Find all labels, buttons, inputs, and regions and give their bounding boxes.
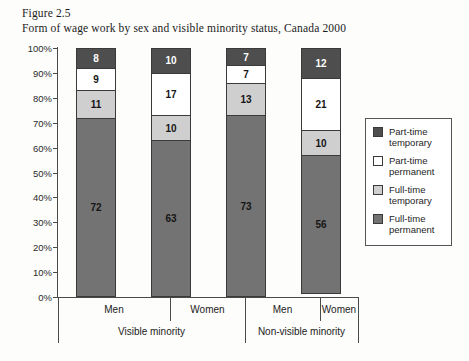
figure-number: Figure 2.5: [22, 6, 442, 20]
figure-title: Form of wage work by sex and visible min…: [22, 21, 442, 35]
y-tick-label-40: 40%: [12, 192, 52, 203]
legend-label: Full-timetemporary: [389, 184, 432, 206]
y-tick-label-80: 80%: [12, 92, 52, 103]
y-tick-label-50: 50%: [12, 167, 52, 178]
group-label-non-visible-minority: Non-visible minority: [245, 326, 358, 337]
y-tick-label-60: 60%: [12, 142, 52, 153]
legend-item-full-time-temporary[interactable]: Full-timetemporary: [373, 184, 446, 206]
legend-label-line2: permanent: [389, 166, 434, 177]
legend-label: Part-timepermanent: [389, 155, 434, 177]
category-axis: Men Women Men Women Visible minority Non…: [0, 297, 469, 361]
legend-label-line2: permanent: [389, 224, 434, 235]
legend-item-part-time-temporary[interactable]: Part-timetemporary: [373, 126, 446, 148]
legend-swatch-icon: [373, 156, 383, 166]
legend-label-line1: Full-time: [389, 213, 425, 224]
legend-item-full-time-permanent[interactable]: Full-timepermanent: [373, 213, 446, 235]
figure-caption: Figure 2.5 Form of wage work by sex and …: [22, 6, 442, 35]
segment-part-time-temporary[interactable]: 8: [76, 48, 116, 68]
segment-part-time-temporary[interactable]: 12: [301, 48, 341, 78]
segment-part-time-temporary[interactable]: 7: [226, 48, 266, 65]
segment-full-time-temporary[interactable]: 10: [151, 115, 191, 140]
segment-part-time-permanent[interactable]: 17: [151, 73, 191, 115]
category-label-women-nonvisible: Women: [320, 304, 358, 315]
bar-men-visible-minority[interactable]: 8 9 11 72: [76, 48, 116, 297]
legend-label: Part-timetemporary: [389, 126, 432, 148]
segment-full-time-temporary[interactable]: 10: [301, 130, 341, 155]
y-tick-label-30: 30%: [12, 217, 52, 228]
segment-part-time-permanent[interactable]: 21: [301, 78, 341, 130]
y-tick-label-70: 70%: [12, 117, 52, 128]
legend: Part-timetemporary Part-timepermanent Fu…: [365, 118, 452, 246]
legend-label-line2: temporary: [389, 137, 432, 148]
segment-full-time-temporary[interactable]: 11: [76, 90, 116, 117]
legend-swatch-icon: [373, 127, 383, 137]
legend-item-part-time-permanent[interactable]: Part-timepermanent: [373, 155, 446, 177]
plot-area: 8 9 11 72 10 17 10 63 7 7 13 73 12 21 10…: [58, 48, 358, 297]
category-label-men-visible: Men: [58, 304, 170, 315]
y-tick-label-90: 90%: [12, 67, 52, 78]
segment-full-time-temporary[interactable]: 13: [226, 83, 266, 115]
segment-part-time-permanent[interactable]: 9: [76, 68, 116, 90]
category-label-men-nonvisible: Men: [245, 304, 320, 315]
bar-men-non-visible-minority[interactable]: 7 7 13 73: [226, 48, 266, 297]
legend-label-line1: Part-time: [389, 155, 428, 166]
category-label-women-visible: Women: [170, 304, 245, 315]
segment-part-time-temporary[interactable]: 10: [151, 48, 191, 73]
legend-label-line2: temporary: [389, 195, 432, 206]
legend-label: Full-timepermanent: [389, 213, 434, 235]
segment-full-time-permanent[interactable]: 72: [76, 118, 116, 297]
axis-divider: [358, 297, 359, 343]
group-label-visible-minority: Visible minority: [58, 326, 245, 337]
legend-swatch-icon: [373, 214, 383, 224]
figure-container: Figure 2.5 Form of wage work by sex and …: [0, 0, 469, 361]
bar-women-non-visible-minority[interactable]: 12 21 10 56: [301, 48, 341, 297]
legend-label-line1: Full-time: [389, 184, 425, 195]
segment-full-time-permanent[interactable]: 56: [301, 155, 341, 294]
y-tick-label-10: 10%: [12, 267, 52, 278]
legend-swatch-icon: [373, 185, 383, 195]
legend-label-line1: Part-time: [389, 126, 428, 137]
bar-women-visible-minority[interactable]: 10 17 10 63: [151, 48, 191, 297]
y-tick-label-100: 100%: [12, 43, 52, 54]
y-tick-label-20: 20%: [12, 242, 52, 253]
segment-full-time-permanent[interactable]: 73: [226, 115, 266, 297]
segment-full-time-permanent[interactable]: 63: [151, 140, 191, 297]
segment-part-time-permanent[interactable]: 7: [226, 65, 266, 82]
